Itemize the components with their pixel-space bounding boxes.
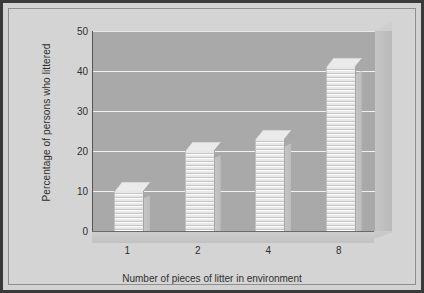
bar-front-face — [255, 139, 285, 231]
x-axis-title: Number of pieces of litter in environmen… — [9, 273, 415, 284]
chart-figure: Percentage of persons who littered 01020… — [0, 0, 424, 293]
y-axis-tick-label: 50 — [77, 26, 88, 37]
plot-floor-bevel — [374, 231, 392, 242]
bar — [255, 139, 283, 231]
bar-front-face — [326, 67, 356, 231]
bar — [114, 191, 142, 231]
x-axis-tick-label: 8 — [336, 245, 342, 256]
bar-front-face — [185, 151, 215, 231]
plot-wall-right — [374, 31, 392, 231]
y-axis-tick-label: 10 — [77, 186, 88, 197]
y-axis-tick-label: 40 — [77, 66, 88, 77]
y-axis-title: Percentage of persons who littered — [41, 23, 52, 223]
axis-top-line — [93, 31, 375, 32]
chart-inner-frame: Percentage of persons who littered 01020… — [8, 8, 416, 285]
bar — [326, 67, 354, 231]
y-axis-tick-label: 0 — [82, 226, 88, 237]
x-axis-tick-label: 1 — [124, 245, 130, 256]
x-axis-tick-label: 2 — [195, 245, 201, 256]
y-axis-tick-label: 30 — [77, 106, 88, 117]
plot-wall-top — [374, 21, 392, 31]
plot-area: 01020304050 1248 — [92, 31, 392, 231]
plot-face: 01020304050 — [92, 31, 375, 231]
x-axis-tick-label: 4 — [265, 245, 271, 256]
plot-floor — [92, 231, 374, 243]
bar — [185, 151, 213, 231]
y-axis-tick-label: 20 — [77, 146, 88, 157]
bar-front-face — [114, 191, 144, 231]
